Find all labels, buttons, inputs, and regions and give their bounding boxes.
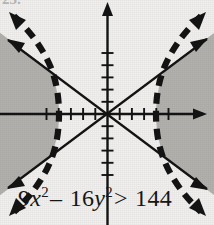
caption-coef-y: 16	[70, 185, 95, 211]
caption-coef-x: 9	[18, 185, 30, 211]
y-axis-arrowhead	[102, 2, 113, 16]
hyperbola-inequality-figure: 25.	[0, 0, 214, 225]
caption-minus-operator: –	[49, 185, 63, 211]
caption-exp-y: 2	[105, 184, 113, 200]
caption-relation-operator: >	[113, 185, 129, 211]
hyperbola-arrowhead-right-upper	[189, 12, 206, 30]
caption-var-y: y	[94, 185, 105, 211]
hyperbola-arrowhead-left-upper	[9, 12, 26, 30]
inequality-caption: 9x2– 16y2> 144	[18, 185, 203, 212]
caption-exp-x: 2	[41, 184, 49, 200]
caption-constant: 144	[135, 185, 172, 211]
caption-var-x: x	[30, 185, 41, 211]
